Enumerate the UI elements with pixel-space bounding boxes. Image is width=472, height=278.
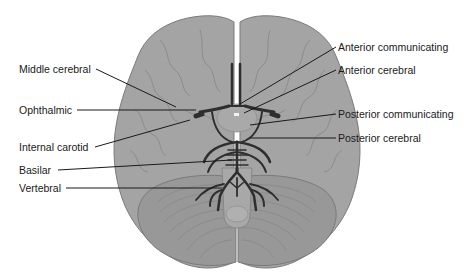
brain-arteries-diagram: Middle cerebral Ophthalmic Internal caro… bbox=[0, 0, 472, 278]
label-anterior-cerebral: Anterior cerebral bbox=[338, 64, 416, 76]
label-internal-carotid: Internal carotid bbox=[19, 141, 88, 153]
pituitary-stalk bbox=[234, 113, 239, 116]
cerebellum-right bbox=[238, 175, 336, 265]
label-posterior-communicating: Posterior communicating bbox=[338, 108, 454, 120]
label-posterior-cerebral: Posterior cerebral bbox=[338, 132, 421, 144]
medulla bbox=[226, 206, 248, 222]
label-middle-cerebral: Middle cerebral bbox=[19, 63, 91, 75]
label-vertebral: Vertebral bbox=[19, 182, 61, 194]
label-anterior-communicating: Anterior communicating bbox=[338, 41, 448, 53]
label-ophthalmic: Ophthalmic bbox=[19, 104, 72, 116]
cerebellum-left bbox=[138, 175, 236, 265]
label-basilar: Basilar bbox=[19, 164, 51, 176]
